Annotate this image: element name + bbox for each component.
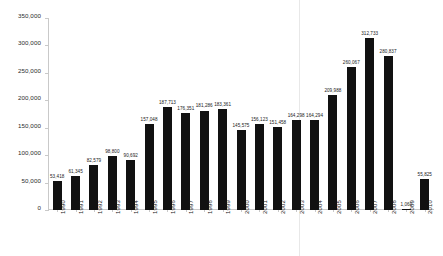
x-axis-label: 1999 xyxy=(225,200,231,214)
x-axis-label: 2002 xyxy=(280,200,286,214)
bar[interactable] xyxy=(200,111,209,210)
y-axis-tick-label: 250,000 xyxy=(18,68,41,74)
bar-column[interactable]: 183,361 xyxy=(218,18,227,210)
bar-column[interactable]: 82,579 xyxy=(89,18,98,210)
y-axis-tick-label: 300,000 xyxy=(18,40,41,46)
x-axis-label: 2008 xyxy=(391,200,397,214)
bar-column[interactable]: 164,294 xyxy=(310,18,319,210)
x-axis-label: 2001 xyxy=(262,200,268,214)
bar[interactable] xyxy=(237,130,246,210)
bar-column[interactable]: 157,048 xyxy=(145,18,154,210)
bar[interactable] xyxy=(181,113,190,210)
bar-column[interactable]: 1,060 xyxy=(402,18,411,210)
x-axis-label: 2005 xyxy=(336,200,342,214)
bar[interactable] xyxy=(384,56,393,210)
bar-value-label: 187,713 xyxy=(159,101,176,106)
bar-column[interactable]: 53,418 xyxy=(53,18,62,210)
bar[interactable] xyxy=(365,38,374,210)
bar-column[interactable]: 280,837 xyxy=(384,18,393,210)
bar-column[interactable]: 156,123 xyxy=(255,18,264,210)
bar-value-label: 181,286 xyxy=(196,104,213,109)
bar[interactable] xyxy=(328,95,337,210)
x-axis-label: 1990 xyxy=(60,200,66,214)
x-axis-label: 2006 xyxy=(354,200,360,214)
bar-value-label: 164,298 xyxy=(288,114,305,119)
x-axis-label: 1997 xyxy=(188,200,194,214)
bar-value-label: 209,988 xyxy=(324,89,341,94)
bar-column[interactable]: 181,286 xyxy=(200,18,209,210)
x-axis-label: 1996 xyxy=(170,200,176,214)
x-axis-label: 1994 xyxy=(133,200,139,214)
x-axis-label: 1995 xyxy=(152,200,158,214)
bar-column[interactable]: 260,067 xyxy=(347,18,356,210)
x-axis-label: 2009 xyxy=(409,200,415,214)
y-axis-tick-label: 100,000 xyxy=(18,150,41,156)
y-axis-tick-label: 350,000 xyxy=(18,13,41,19)
bar[interactable] xyxy=(218,109,227,210)
bar-column[interactable]: 209,988 xyxy=(328,18,337,210)
x-axis-label: 2000 xyxy=(244,200,250,214)
bar-column[interactable]: 98,800 xyxy=(108,18,117,210)
bar-value-label: 151,458 xyxy=(269,121,286,126)
bar-value-label: 176,351 xyxy=(177,107,194,112)
bar-column[interactable]: 151,458 xyxy=(273,18,282,210)
bar[interactable] xyxy=(255,124,264,210)
plot-area: 53,41861,34582,57998,80090,692157,048187… xyxy=(48,18,434,210)
bar-column[interactable]: 312,733 xyxy=(365,18,374,210)
bar-column[interactable]: 187,713 xyxy=(163,18,172,210)
bar-value-label: 156,123 xyxy=(251,118,268,123)
x-axis-label: 1993 xyxy=(115,200,121,214)
bar-value-label: 61,345 xyxy=(68,170,82,175)
bar-value-label: 164,294 xyxy=(306,114,323,119)
bar-column[interactable]: 176,351 xyxy=(181,18,190,210)
y-axis-tick-label: 0 xyxy=(37,205,41,211)
bar-value-label: 55,825 xyxy=(418,173,432,178)
bar-column[interactable]: 55,825 xyxy=(420,18,429,210)
x-axis-label: 1992 xyxy=(97,200,103,214)
bar-column[interactable]: 145,575 xyxy=(237,18,246,210)
y-axis-tick-label: 150,000 xyxy=(18,123,41,129)
y-axis-tick-label: 50,000 xyxy=(21,178,41,184)
x-axis-label: 2010 xyxy=(427,200,433,214)
x-axis-label: 1991 xyxy=(78,200,84,214)
bar-value-label: 280,837 xyxy=(380,50,397,55)
bar-column[interactable]: 90,692 xyxy=(126,18,135,210)
bar-value-label: 90,692 xyxy=(124,154,138,159)
bar-value-label: 157,048 xyxy=(141,118,158,123)
x-axis-label: 2007 xyxy=(372,200,378,214)
y-axis-tick-mark xyxy=(45,210,49,211)
bar-value-label: 312,733 xyxy=(361,32,378,37)
bar-value-label: 260,067 xyxy=(343,61,360,66)
bar[interactable] xyxy=(163,107,172,210)
bar[interactable] xyxy=(310,120,319,210)
x-axis-label: 2003 xyxy=(299,200,305,214)
bar[interactable] xyxy=(145,124,154,210)
bar-column[interactable]: 164,298 xyxy=(292,18,301,210)
bar-column[interactable]: 61,345 xyxy=(71,18,80,210)
bar[interactable] xyxy=(347,67,356,210)
x-axis-label: 1998 xyxy=(207,200,213,214)
y-axis-tick-label: 200,000 xyxy=(18,95,41,101)
bar-chart: 050,000100,000150,000200,000250,000300,0… xyxy=(0,0,443,256)
bar[interactable] xyxy=(273,127,282,210)
bar-value-label: 53,418 xyxy=(50,175,64,180)
bar[interactable] xyxy=(292,120,301,210)
bar-value-label: 82,579 xyxy=(87,159,101,164)
x-axis-label: 2004 xyxy=(317,200,323,214)
bar-value-label: 183,361 xyxy=(214,103,231,108)
bar-value-label: 145,575 xyxy=(233,124,250,129)
bar-value-label: 98,800 xyxy=(105,150,119,155)
